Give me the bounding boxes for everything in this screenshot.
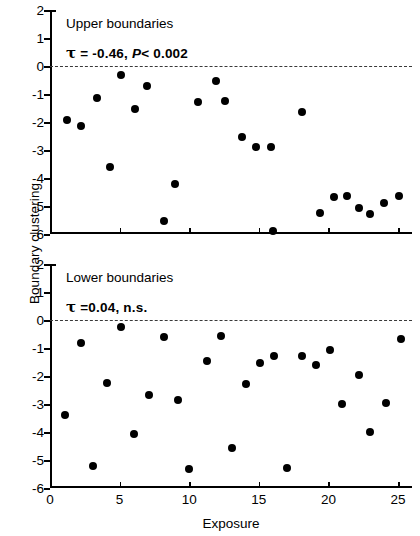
y-tick [44,94,50,96]
y-tick [44,292,50,294]
panel-title-lower: Lower boundaries [66,270,173,285]
y-tick-label: -5 [32,199,44,214]
data-point [77,339,85,347]
y-tick-label: -2 [32,369,44,384]
y-tick [44,460,50,462]
plot-area-lower: Lower boundaries τ =0.04, n.s. 210-1-2-3… [50,264,412,488]
x-tick [50,228,52,234]
panel-title-upper: Upper boundaries [66,16,173,31]
data-point [130,430,138,438]
y-tick-label: 0 [36,59,44,74]
y-tick [44,206,50,208]
x-tick [398,228,400,234]
data-point [298,352,306,360]
y-axis-cap-upper [50,10,56,12]
y-tick-label: -2 [32,115,44,130]
data-point [238,133,246,141]
data-point [355,204,363,212]
y-tick-label: 2 [36,3,44,18]
y-tick [44,320,50,322]
data-point [185,465,193,473]
data-point [131,105,139,113]
y-tick [44,234,50,236]
y-tick-label: 0 [36,313,44,328]
data-point [143,82,151,90]
panel-stats-upper: τ = -0.46, P< 0.002 [66,44,188,62]
tau-symbol-lower: τ [66,298,76,316]
data-point [77,122,85,130]
data-point [256,359,264,367]
x-tick-label: 20 [321,492,336,507]
x-tick-label: 5 [116,492,124,507]
zero-reference-line-upper [50,66,412,67]
data-point [93,94,101,102]
data-point [242,380,250,388]
x-tick-label: 0 [46,492,54,507]
y-tick-label: -3 [32,143,44,158]
data-point [252,143,260,151]
data-point [283,464,291,472]
panel-stats-lower: τ =0.04, n.s. [66,298,147,316]
x-tick [189,228,191,234]
x-axis-line-lower [50,486,412,488]
tau-value-lower: 0.04, [88,300,119,315]
y-tick [44,10,50,12]
data-point [338,400,346,408]
y-tick [44,178,50,180]
data-point [212,77,220,85]
x-tick [50,482,52,488]
data-point [330,193,338,201]
x-axis-title: Exposure [50,516,412,531]
data-point [267,143,275,151]
x-tick [120,228,122,234]
y-tick-label: 1 [36,285,44,300]
data-point [217,332,225,340]
data-point [298,108,306,116]
y-tick [44,150,50,152]
data-point [89,462,97,470]
data-point [343,192,351,200]
x-axis-line-upper [50,232,412,234]
x-tick-label: 15 [251,492,266,507]
data-point [316,209,324,217]
y-tick-label: 1 [36,31,44,46]
data-point [269,227,277,235]
data-point [355,371,363,379]
data-point [395,192,403,200]
y-tick-label: -3 [32,397,44,412]
data-point [171,180,179,188]
data-point [61,411,69,419]
x-tick [120,482,122,488]
tau-value-upper: -0.46, [92,46,128,61]
data-point [160,333,168,341]
data-point [103,379,111,387]
p-value-lower: n.s. [123,300,147,315]
y-tick-label: -5 [32,453,44,468]
plot-area-upper: Upper boundaries τ = -0.46, P< 0.002 210… [50,10,412,234]
data-point [221,97,229,105]
y-tick [44,348,50,350]
x-tick-label: 25 [391,492,406,507]
data-point [366,428,374,436]
data-point [312,361,320,369]
zero-reference-line-lower [50,320,412,321]
y-tick [44,264,50,266]
stat-prefix-lower: = [76,300,88,315]
y-axis-cap-lower [50,264,56,266]
x-tick [398,482,400,488]
data-point [382,399,390,407]
data-point [380,199,388,207]
data-point [63,116,71,124]
y-tick-label: -4 [32,171,44,186]
y-tick [44,38,50,40]
data-point [117,71,125,79]
x-tick [189,482,191,488]
p-value-upper: < 0.002 [141,46,188,61]
y-tick-label: -6 [32,227,44,242]
data-point [270,352,278,360]
data-point [203,357,211,365]
panel-upper-boundaries: Upper boundaries τ = -0.46, P< 0.002 210… [50,10,412,234]
y-tick-label: -6 [32,481,44,496]
y-tick-label: -1 [32,87,44,102]
y-tick-label: -4 [32,425,44,440]
